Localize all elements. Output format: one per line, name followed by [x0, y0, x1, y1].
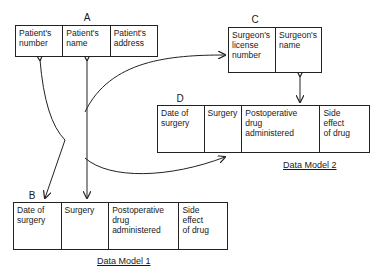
entity-b-table: Date of surgery Surgery Postoperative dr… — [13, 202, 228, 250]
patient-name-cell: Patient's name — [63, 26, 110, 56]
entity-d-table: Date of surgery Surgery Postoperative dr… — [157, 105, 370, 153]
data-model-2-caption: Data Model 2 — [283, 160, 337, 170]
postoperative-drug-cell: Postoperative drug administered — [242, 106, 320, 152]
entity-c-label: C — [250, 15, 260, 25]
postoperative-drug-cell: Postoperative drug administered — [109, 203, 179, 249]
entity-c-table: Surgeon's license number Surgeon's name — [228, 27, 322, 73]
entity-d-label: D — [175, 94, 185, 104]
surgeon-license-cell: Surgeon's license number — [229, 28, 276, 72]
patient-address-cell: Patient's address — [111, 26, 157, 56]
side-effect-cell: Side effect of drug — [179, 203, 227, 249]
patient-number-cell: Patient's number — [16, 26, 63, 56]
date-of-surgery-cell: Date of surgery — [158, 106, 205, 152]
entity-a-label: A — [82, 13, 92, 23]
side-effect-cell: Side effect of drug — [320, 106, 369, 152]
entity-a-table: Patient's number Patient's name Patient'… — [15, 25, 158, 57]
date-of-surgery-cell: Date of surgery — [14, 203, 62, 249]
surgery-cell: Surgery — [205, 106, 243, 152]
entity-b-label: B — [27, 191, 37, 201]
surgery-cell: Surgery — [62, 203, 110, 249]
data-model-1-caption: Data Model 1 — [97, 256, 151, 266]
surgeon-name-cell: Surgeon's name — [276, 28, 321, 72]
